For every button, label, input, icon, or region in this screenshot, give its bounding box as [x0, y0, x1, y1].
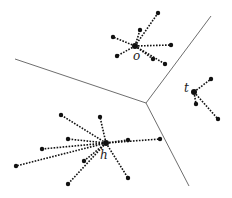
- data-point: [115, 54, 119, 58]
- cluster-center: [103, 140, 109, 146]
- cluster-center: [191, 89, 197, 95]
- cluster-label: o: [133, 49, 140, 63]
- data-point: [169, 43, 173, 47]
- data-point: [126, 176, 130, 180]
- cluster-t: t: [184, 77, 220, 121]
- data-point: [156, 11, 160, 15]
- cluster-spoke: [194, 79, 211, 92]
- data-point: [138, 28, 142, 32]
- data-point: [194, 102, 198, 106]
- data-point: [126, 138, 130, 142]
- cluster-label: t: [184, 81, 189, 95]
- data-point: [66, 137, 70, 141]
- boundary-line: [146, 103, 189, 186]
- voronoi-boundaries: [15, 16, 211, 186]
- boundary-line: [146, 16, 211, 103]
- data-point: [151, 57, 155, 61]
- cluster-spoke: [106, 139, 160, 143]
- data-point: [98, 115, 102, 119]
- cluster-spoke: [113, 37, 135, 46]
- boundary-line: [15, 59, 146, 103]
- data-point: [59, 113, 63, 117]
- cluster-diagram: oth: [0, 0, 232, 198]
- data-point: [111, 35, 115, 39]
- data-point: [66, 182, 70, 186]
- data-point: [14, 164, 18, 168]
- data-point: [163, 62, 167, 66]
- data-point: [82, 159, 86, 163]
- cluster-label: h: [100, 148, 108, 162]
- cluster-h: h: [14, 113, 162, 186]
- cluster-o: o: [111, 11, 173, 66]
- cluster-spoke: [106, 143, 128, 178]
- data-point: [216, 117, 220, 121]
- cluster-spoke: [135, 45, 171, 46]
- data-point: [209, 77, 213, 81]
- clusters: oth: [14, 11, 220, 186]
- data-point: [158, 137, 162, 141]
- data-point: [40, 147, 44, 151]
